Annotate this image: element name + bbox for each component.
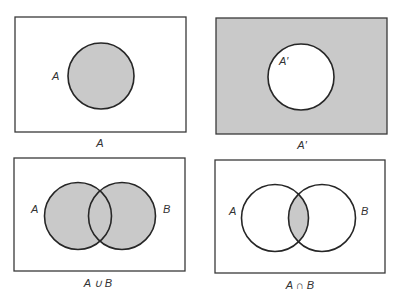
caption-complement-a: A′	[296, 139, 307, 151]
set-b-label: B	[361, 205, 368, 217]
complement-label: A′	[278, 55, 289, 67]
diagram-union: A B A ∪ B	[14, 158, 185, 289]
set-b-label: B	[163, 203, 170, 215]
caption-union: A ∪ B	[83, 277, 112, 289]
caption-intersection: A ∩ B	[285, 279, 314, 291]
set-a-label: A	[30, 203, 38, 215]
diagram-complement-a: A′ A′	[216, 18, 387, 151]
set-a-label: A	[51, 70, 59, 82]
set-a-label: A	[228, 205, 236, 217]
diagram-set-a: A A	[15, 17, 186, 149]
caption-set-a: A	[95, 137, 103, 149]
diagram-intersection: A B A ∩ B	[215, 160, 385, 291]
venn-diagrams-figure: A A A′ A′ A B A ∪ B A B A ∩ B	[0, 0, 400, 297]
set-a-circle	[68, 43, 134, 109]
set-a-circle-unshaded	[268, 44, 334, 110]
